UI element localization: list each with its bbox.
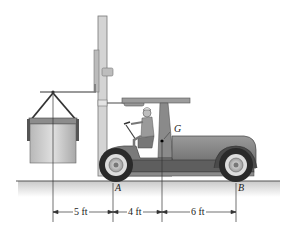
rear-wheel [219,148,253,182]
dimension-label-5ft: 5 ft [73,207,89,217]
front-wheel [99,148,133,182]
dimension-label-4ft: 4 ft [127,207,143,217]
point-label-g: G [174,124,181,134]
point-label-a: A [115,183,121,193]
diagram-drawing [0,0,291,239]
forklift-diagram: G A B 5 ft 4 ft 6 ft [0,0,291,239]
point-label-b: B [238,183,244,193]
dimension-label-6ft: 6 ft [190,207,206,217]
